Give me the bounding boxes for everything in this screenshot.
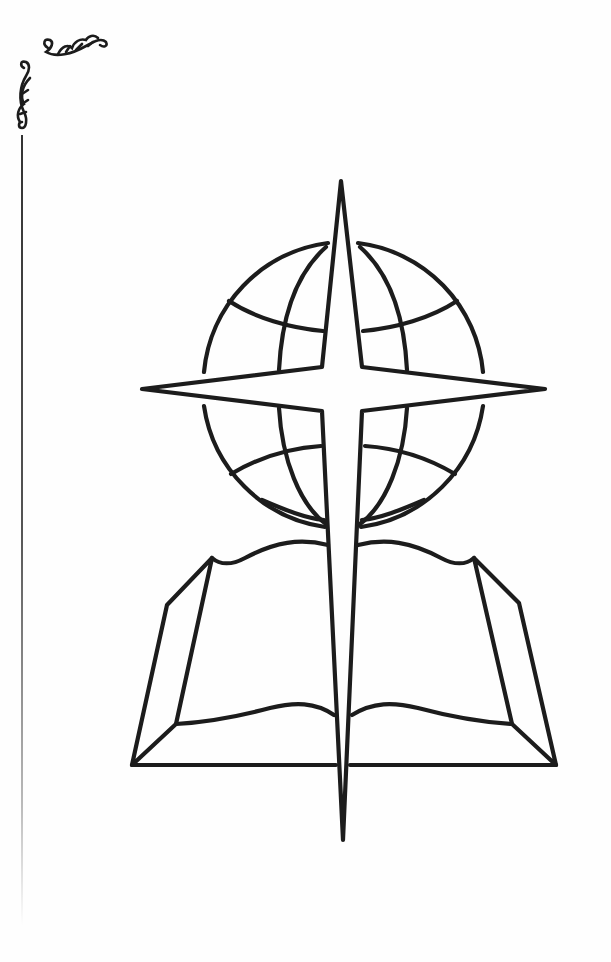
star-cross-icon <box>142 181 545 840</box>
globe-icon <box>204 243 483 527</box>
page <box>0 0 611 962</box>
emblem-globe-cross-book-icon <box>0 0 611 962</box>
open-book-icon <box>132 542 556 765</box>
